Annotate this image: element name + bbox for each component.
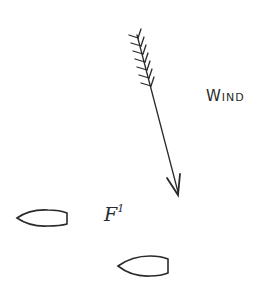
- fleet-label-superscript: 1: [117, 202, 124, 215]
- fleet-label: F1: [104, 203, 124, 225]
- boat-1-icon: [17, 210, 67, 226]
- wind-diagram: Wind F1: [0, 0, 274, 308]
- diagram-canvas: [0, 0, 274, 308]
- wind-arrow-icon: [129, 29, 180, 195]
- wind-label: Wind: [206, 87, 245, 105]
- fleet-label-main: F: [104, 203, 117, 225]
- boat-2-icon: [118, 256, 168, 276]
